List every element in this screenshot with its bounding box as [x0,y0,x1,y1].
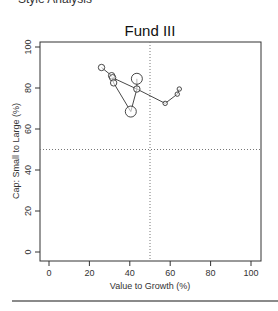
y-tick-label: 60 [23,124,33,134]
data-point [134,86,140,92]
x-axis-label: Value to Growth (%) [110,281,190,291]
y-axis-label: Cap: Small to Large (%) [11,103,21,199]
y-tick-label: 100 [23,39,33,54]
data-point [163,101,167,105]
data-point [175,92,179,96]
x-tick-label: 100 [243,268,258,278]
y-tick-label: 0 [23,249,33,254]
data-point [110,80,116,86]
x-tick-label: 80 [206,268,216,278]
divider [12,300,278,302]
data-point [131,73,142,84]
x-tick-label: 20 [84,268,94,278]
x-tick-label: 40 [125,268,135,278]
y-tick-label: 80 [23,83,33,93]
series-trail [113,78,180,104]
y-tick-label: 40 [23,165,33,175]
series-trail [102,68,137,112]
data-point [98,64,104,70]
scatter-chart: 020406080100020406080100Value to Growth … [0,0,278,311]
x-tick-label: 0 [46,268,51,278]
x-tick-label: 60 [165,268,175,278]
y-tick-label: 20 [23,206,33,216]
data-point [177,87,181,91]
data-point [125,106,136,117]
